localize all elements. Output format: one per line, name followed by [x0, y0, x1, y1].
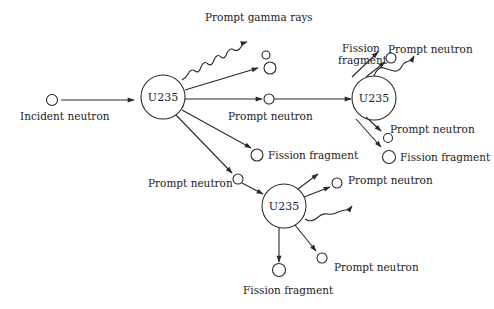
fission-fragment-ur-bottom-label: Fission fragment: [400, 151, 491, 163]
prompt-neutron-circle-main: [264, 94, 274, 104]
incident-neutron-circle: [47, 95, 58, 106]
arrow-to-prompt-neutron-lower: [176, 115, 232, 173]
lower-fission-fragment-circle: [273, 264, 286, 277]
fission-fragment-circle-main: [251, 149, 263, 161]
diagram-canvas: Incident neutron U235 Prompt gamma rays …: [0, 0, 494, 309]
prompt-neutron-lower-bottom-label: Prompt neutron: [334, 261, 419, 273]
fission-fragment-ur-label-line1: Fission: [342, 42, 380, 54]
prompt-neutron-lower-top-label: Prompt neutron: [348, 174, 433, 186]
small-particle-circle: [262, 51, 270, 59]
nucleus-main-label: U235: [148, 91, 178, 104]
lower-arrow-prompt-neutron-bottom: [295, 225, 316, 251]
fission-fragment-ur-label-line2: fragment: [338, 54, 388, 66]
nucleus-lower-label: U235: [269, 200, 299, 213]
arrow-to-lower-nucleus: [242, 183, 263, 194]
prompt-neutron-ur-top-label: Prompt neutron: [388, 43, 473, 55]
lower-prompt-neutron-circle-bottom: [317, 253, 327, 263]
ur-fission-fragment-circle: [383, 151, 396, 164]
lower-gamma-ray: [305, 206, 352, 221]
prompt-neutron-main-label: Prompt neutron: [228, 110, 313, 122]
prompt-neutron-circle-lower: [233, 174, 243, 184]
fragment-circle-upper: [264, 62, 276, 74]
fission-chain-diagram: Incident neutron U235 Prompt gamma rays …: [0, 0, 494, 309]
nucleus-upper-right-label: U235: [359, 92, 389, 105]
ur-arrow-fission-fragment: [356, 119, 381, 147]
prompt-gamma-rays-label: Prompt gamma rays: [205, 11, 313, 23]
fission-fragment-lower-bottom-label: Fission fragment: [243, 284, 334, 296]
prompt-neutron-lower-in-label: Prompt neutron: [148, 177, 233, 189]
fission-fragment-main-label: Fission fragment: [268, 149, 359, 161]
lower-prompt-neutron-circle-top: [332, 178, 342, 188]
prompt-neutron-ur-bottom-label: Prompt neutron: [390, 123, 475, 135]
lower-arrow-fragment-up: [298, 174, 318, 189]
lower-arrow-prompt-neutron-top: [304, 187, 330, 197]
incident-neutron-label: Incident neutron: [20, 110, 110, 122]
